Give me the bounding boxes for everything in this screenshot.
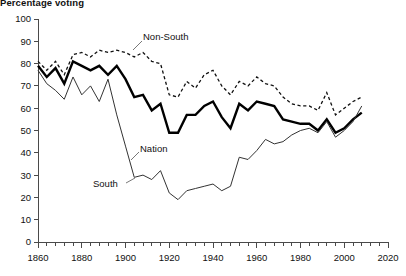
chart-container: Percentage voting 0102030405060708090100… [0,0,406,276]
series-group [38,41,362,200]
y-tick-label: 100 [15,13,31,24]
x-tick-label: 2000 [334,252,355,263]
y-tick-label: 70 [20,80,31,91]
series-label-nation: Nation [140,143,167,154]
y-tick-label: 50 [20,125,31,136]
y-tick-label: 0 [26,236,31,247]
y-tick-label: 90 [20,36,31,47]
x-tick-label: 1900 [115,252,136,263]
x-tick-label: 1960 [246,252,267,263]
x-tick-label: 1860 [27,252,48,263]
x-tick-label: 2020 [377,252,398,263]
annotation-leader-0 [133,41,142,50]
annotation-leader-2 [126,178,135,183]
y-tick-label: 60 [20,103,31,114]
series-label-non-south: Non-South [143,31,188,42]
y-tick-label: 30 [20,170,31,181]
x-tick-label: 1940 [202,252,223,263]
chart-plot-area: 0102030405060708090100186018801900192019… [0,0,406,276]
chart-axes [38,19,388,242]
axes-group: 0102030405060708090100186018801900192019… [15,13,398,263]
x-tick-label: 1880 [71,252,92,263]
annotation-leader-1 [131,152,139,160]
y-tick-label: 80 [20,58,31,69]
x-tick-label: 1920 [159,252,180,263]
x-tick-label: 1980 [290,252,311,263]
series-path-non-south [38,50,362,115]
series-label-south: South [93,178,118,189]
y-tick-label: 20 [20,192,31,203]
y-tick-label: 10 [20,214,31,225]
y-tick-label: 40 [20,147,31,158]
series-path-south [38,70,362,199]
series-path-nation [38,61,362,132]
